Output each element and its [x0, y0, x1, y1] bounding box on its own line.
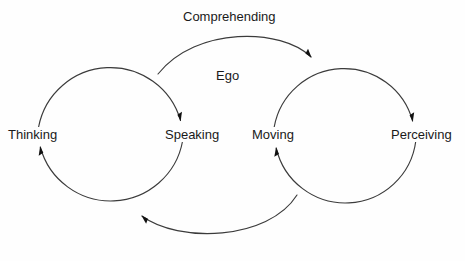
- return-connector: [142, 195, 297, 234]
- left-cycle-lower-arc: [40, 141, 182, 201]
- node-label-perceiving: Perceiving: [389, 127, 454, 142]
- node-label-thinking: Thinking: [6, 127, 59, 142]
- right-cycle-lower-arc: [276, 141, 416, 203]
- center-label-ego: Ego: [216, 68, 239, 83]
- right-cycle-upper-arc: [274, 69, 412, 127]
- node-label-speaking: Speaking: [163, 127, 221, 142]
- node-label-moving: Moving: [250, 127, 296, 142]
- left-cycle-upper-arc: [39, 68, 181, 127]
- diagram-canvas: Thinking Speaking Moving Perceiving Comp…: [0, 0, 465, 261]
- edge-label-comprehending: Comprehending: [183, 9, 276, 24]
